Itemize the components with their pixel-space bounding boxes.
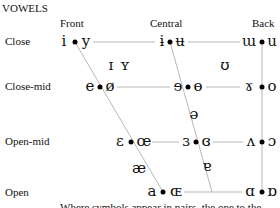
vowel-symbol: ɨ (160, 34, 165, 49)
vowel-symbol: ɵ (193, 79, 202, 94)
vowel-symbol: ɔ (268, 134, 276, 149)
vowel-symbol: y (82, 34, 90, 49)
vowel-trapezoid-lines (0, 0, 280, 208)
vowel-dot (260, 40, 265, 45)
vowel-symbol: ɯ (242, 34, 256, 49)
vowel-symbol: œ (137, 134, 152, 149)
vowel-symbol: ʌ (247, 134, 255, 149)
vowel-dot (194, 140, 199, 145)
footnote-caption: Where symbols appear in pairs, the one t… (60, 201, 280, 208)
vowel-symbol: ʊ (220, 58, 229, 73)
vowel-symbol: i (62, 34, 67, 49)
vowel-dot (260, 190, 265, 195)
vowel-symbol: ʉ (175, 34, 185, 49)
vowel-dot (168, 40, 173, 45)
vowel-symbol: ɪ (109, 58, 114, 73)
vowel-dot (161, 190, 166, 195)
vowel-symbol: ɜ (182, 134, 190, 149)
vowel-symbol: ɞ (201, 134, 210, 149)
vowel-symbol: æ (132, 161, 146, 176)
vowel-symbol: ɤ (245, 79, 253, 94)
vowel-symbol: e (86, 79, 95, 94)
vowel-symbol: ə (190, 107, 199, 122)
vowel-symbol: u (267, 34, 277, 49)
vowel-symbol: a (148, 184, 157, 199)
vowel-symbol: ɑ (245, 184, 255, 199)
vowel-dot (73, 40, 78, 45)
vowel-dot (129, 140, 134, 145)
vowel-symbol: ɘ (174, 79, 183, 94)
vowel-symbol: o (267, 79, 276, 94)
vowel-symbol: ɶ (170, 184, 182, 199)
vowel-dot (260, 85, 265, 90)
vowel-dot (260, 140, 265, 145)
vowel-symbol: ɐ (203, 159, 212, 174)
vowel-symbol: ɛ (116, 134, 124, 149)
vowel-dot (98, 85, 103, 90)
vowel-symbol: ø (105, 79, 114, 94)
vowel-dot (186, 85, 191, 90)
vowel-symbol: ɒ (267, 184, 277, 199)
vowel-symbol: ʏ (120, 58, 130, 73)
